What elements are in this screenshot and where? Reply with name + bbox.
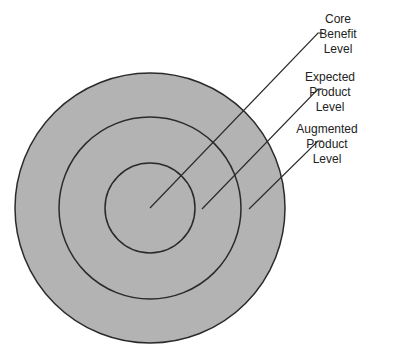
label-line: Augmented — [287, 122, 367, 137]
label-line: Product — [287, 137, 367, 152]
label-line: Benefit — [298, 27, 378, 42]
label-line: Level — [287, 152, 367, 167]
label-line: Level — [298, 42, 378, 57]
label-line: Product — [290, 85, 370, 100]
augmented-product-label: Augmented Product Level — [287, 122, 367, 167]
label-line: Core — [298, 12, 378, 27]
expected-product-label: Expected Product Level — [290, 70, 370, 115]
label-line: Expected — [290, 70, 370, 85]
core-benefit-label: Core Benefit Level — [298, 12, 378, 57]
label-line: Level — [290, 100, 370, 115]
